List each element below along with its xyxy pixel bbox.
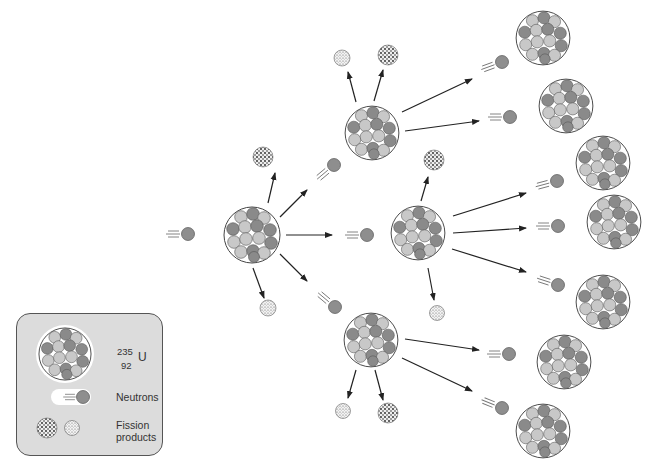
fission-product-dark: [378, 45, 398, 65]
uranium-nucleus-gen3: [516, 404, 570, 458]
uranium-nucleus-gen3: [576, 136, 630, 190]
neutron-gen1-mid: [345, 229, 374, 242]
neutron-gen1-down: [316, 291, 341, 314]
neutron-gen2: [536, 275, 564, 291]
fission-product-dark: [253, 147, 273, 167]
uranium-nucleus-gen3: [516, 11, 570, 65]
neutron-gen1-up: [315, 159, 340, 182]
fission-label-line2: products: [116, 431, 156, 443]
uranium-nucleus-gen1: [224, 207, 280, 263]
isotope-atomic-number: 92: [121, 360, 132, 371]
incoming-neutron: [166, 228, 195, 241]
isotope-mass-number: 235: [117, 346, 133, 357]
legend-panel: 235 92 U Neutrons Fission products: [16, 313, 163, 456]
neutron-gen2: [535, 175, 564, 190]
fission-product-fine: [260, 300, 276, 316]
neutron-gen2: [536, 220, 565, 233]
neutron-gen2: [488, 111, 517, 124]
legend-fission-products-icon: [37, 418, 80, 438]
neutrons-label: Neutrons: [116, 391, 159, 403]
fission-product-fine: [430, 306, 445, 321]
legend-nucleus-icon: [36, 325, 94, 383]
uranium-nucleus-gen2-middle: [391, 206, 445, 260]
fission-product-dark: [424, 150, 444, 170]
legend-neutron-icon: [51, 389, 91, 405]
uranium-nucleus-gen3: [539, 79, 593, 133]
neutron-gen2: [480, 397, 508, 415]
uranium-nucleus-gen2-upper: [345, 106, 399, 160]
neutron-gen2: [480, 56, 508, 73]
uranium-nucleus-gen3: [576, 275, 630, 329]
fission-product-dark: [378, 403, 398, 423]
fission-product-fine: [334, 50, 350, 66]
fission-label-line1: Fission: [116, 419, 149, 431]
uranium-nucleus-gen3: [587, 195, 641, 249]
neutron-gen2: [487, 348, 516, 361]
uranium-nucleus-gen3: [537, 335, 591, 389]
fission-product-fine: [336, 404, 351, 419]
isotope-symbol: U: [138, 350, 147, 364]
uranium-nucleus-gen2-lower: [344, 313, 398, 367]
